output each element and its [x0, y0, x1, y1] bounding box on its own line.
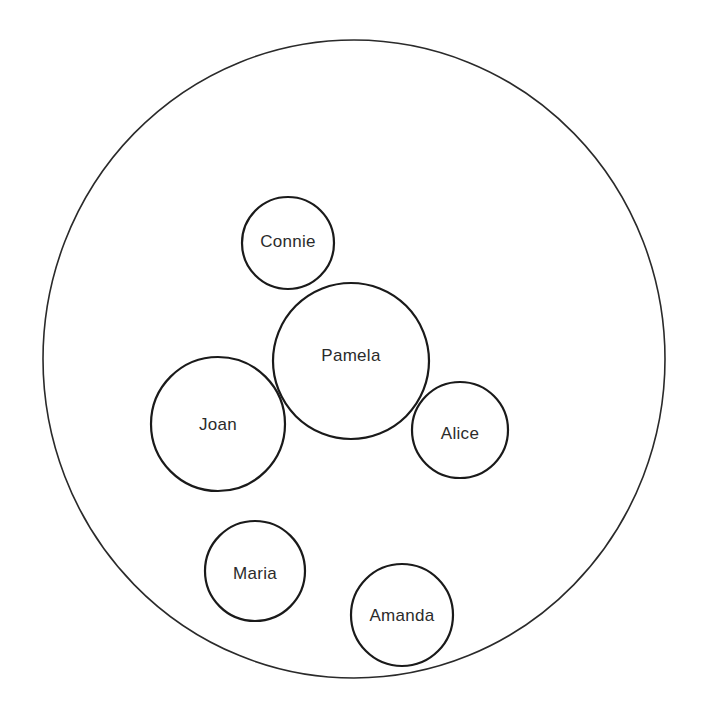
- person-label: Joan: [199, 415, 237, 434]
- person-label: Amanda: [369, 606, 434, 625]
- person-node-maria: Maria: [205, 521, 305, 621]
- group-diagram: ConniePamelaJoanAliceMariaAmanda: [0, 0, 701, 709]
- person-label: Pamela: [321, 346, 381, 365]
- person-node-pamela: Pamela: [273, 283, 429, 439]
- person-node-amanda: Amanda: [351, 564, 453, 666]
- person-node-alice: Alice: [412, 382, 508, 478]
- person-node-connie: Connie: [242, 197, 334, 289]
- person-label: Alice: [441, 424, 479, 443]
- people-layer: ConniePamelaJoanAliceMariaAmanda: [151, 197, 508, 666]
- person-label: Connie: [260, 232, 316, 251]
- person-label: Maria: [233, 564, 277, 583]
- person-node-joan: Joan: [151, 357, 285, 491]
